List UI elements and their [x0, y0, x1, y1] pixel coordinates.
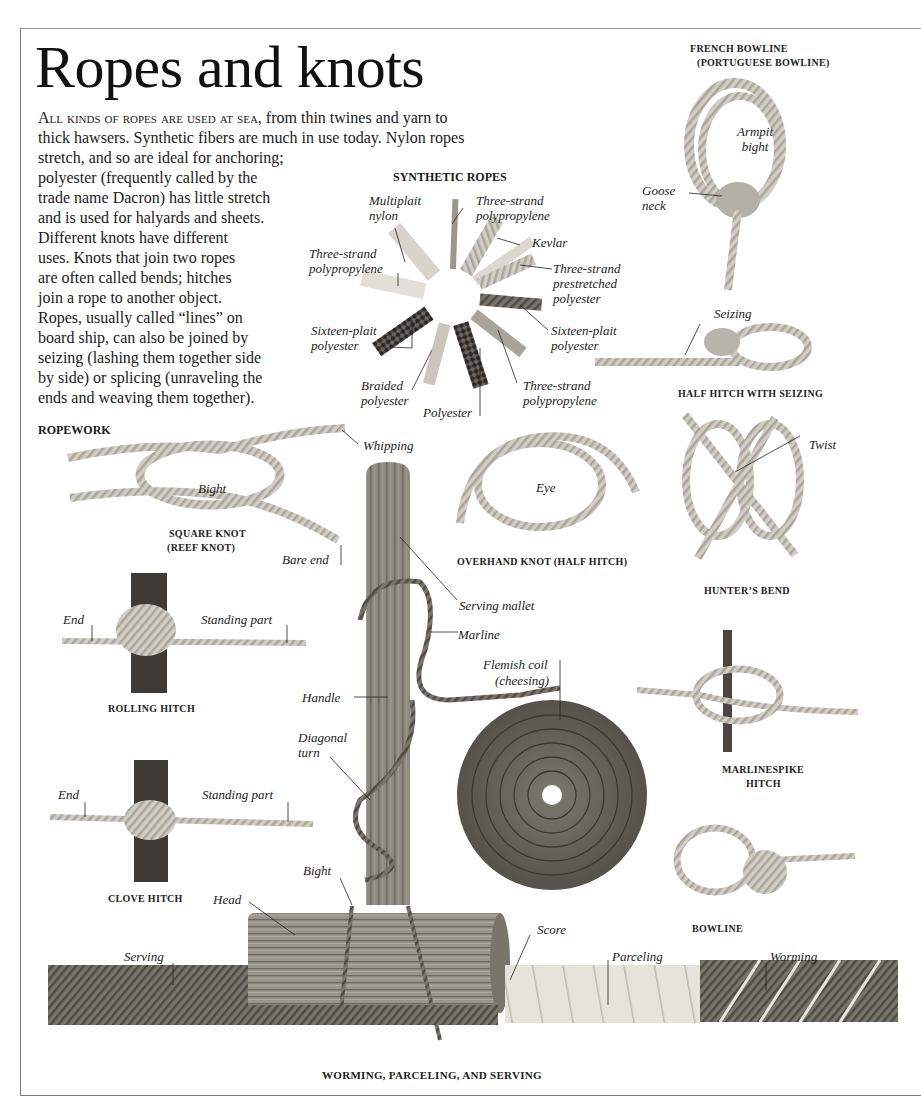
portuguese-bowline-caption: (PORTUGUESE BOWLINE) [697, 56, 830, 70]
label-twist: Twist [809, 437, 836, 452]
label-armpit-bight: Armpit bight [733, 124, 777, 154]
label-sixteen-plait-polyester-right: Sixteen-plait polyester [551, 323, 631, 353]
reef-knot-caption: (REEF KNOT) [167, 541, 235, 555]
label-three-strand-prestretched-polyester: Three-strand prestretched polyester [553, 261, 638, 306]
label-bare-end: Bare end [282, 552, 329, 567]
label-handle: Handle [302, 690, 340, 705]
intro-line: thick hawsers. Synthetic fibers are much… [38, 128, 464, 148]
intro-line: board ship, can also be joined by [38, 328, 464, 348]
french-bowline-caption: FRENCH BOWLINE [690, 42, 788, 56]
bowline-caption: BOWLINE [692, 922, 743, 936]
french-bowline-illustration [689, 83, 781, 290]
hunters-bend-caption: HUNTER’S BEND [704, 584, 790, 598]
marlinespike-hitch-caption: HITCH [746, 777, 781, 791]
label-standing-part-rolling: Standing part [201, 612, 272, 627]
synthetic-ropes-heading: SYNTHETIC ROPES [393, 170, 507, 185]
half-hitch-seizing-caption: HALF HITCH WITH SEIZING [678, 387, 823, 401]
label-marline: Marline [458, 627, 500, 642]
label-end-clove: End [58, 787, 79, 802]
flemish-coil-illustration [457, 700, 647, 890]
label-bight-square-knot: Bight [198, 481, 226, 496]
label-end-rolling: End [63, 612, 84, 627]
intro-line: join a rope to another object. [38, 288, 464, 308]
label-flemish-coil: Flemish coil [483, 657, 548, 672]
label-polyester: Polyester [423, 405, 472, 420]
worming-parceling-serving-caption: WORMING, PARCELING, AND SERVING [322, 1068, 542, 1082]
overhand-knot-caption: OVERHAND KNOT (HALF HITCH) [457, 555, 627, 569]
label-braided-polyester: Braided polyester [361, 378, 421, 408]
intro-line: stretch, and so are ideal for anchoring; [38, 148, 464, 168]
label-sixteen-plait-polyester-left: Sixteen-plait polyester [311, 323, 391, 353]
label-goose-neck: Goose neck [642, 183, 682, 213]
intro-lead: All kinds of ropes are used at sea [38, 109, 258, 126]
label-head: Head [213, 892, 241, 907]
label-score: Score [537, 922, 566, 937]
clove-hitch-caption: CLOVE HITCH [108, 892, 183, 906]
label-three-strand-polypropylene-bottom: Three-strand polypropylene [523, 378, 618, 408]
label-kevlar: Kevlar [532, 235, 567, 250]
marlinespike-caption: MARLINESPIKE [722, 763, 804, 777]
label-cheesing: (cheesing) [495, 673, 549, 688]
square-knot-caption: SQUARE KNOT [169, 527, 246, 541]
intro-line: Ropes, usually called “lines” on [38, 308, 464, 328]
intro-line: seizing (lashing them together side [38, 348, 464, 368]
label-diagonal-turn: Diagonal turn [298, 730, 358, 760]
intro-line-1: All kinds of ropes are used at sea, from… [38, 108, 464, 128]
label-parceling: Parceling [612, 949, 663, 964]
label-multiplait-nylon: Multiplait nylon [369, 193, 429, 223]
label-worming: Worming [770, 949, 817, 964]
label-three-strand-polypropylene-left: Three-strand polypropylene [309, 246, 404, 276]
label-standing-part-clove: Standing part [202, 787, 273, 802]
label-whipping: Whipping [363, 438, 414, 453]
rolling-hitch-caption: ROLLING HITCH [108, 702, 195, 716]
clove-hitch-illustration [50, 760, 313, 882]
label-eye: Eye [536, 480, 555, 495]
label-serving-mallet: Serving mallet [459, 598, 534, 613]
rolling-hitch-illustration [62, 573, 306, 693]
label-bight-mallet: Bight [303, 863, 331, 878]
label-three-strand-polypropylene-top: Three-strand polypropylene [476, 193, 571, 223]
page-title: Ropes and knots [35, 34, 424, 100]
marlinespike-hitch-illustration [637, 630, 858, 752]
bowline-illustration [677, 828, 855, 894]
intro-line: Different knots have different [38, 228, 464, 248]
ropework-heading: ROPEWORK [38, 423, 111, 438]
label-seizing: Seizing [714, 306, 752, 321]
label-serving: Serving [124, 949, 164, 964]
hunters-bend-illustration [685, 415, 800, 558]
